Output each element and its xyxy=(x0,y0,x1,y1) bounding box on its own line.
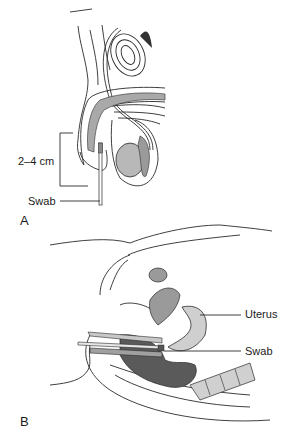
panel-a-male-diagram: 2–4 cm Swab A xyxy=(0,0,292,215)
panel-b-female-diagram: Uterus Swab B xyxy=(0,215,292,434)
measure-label: 2–4 cm xyxy=(18,155,54,167)
swab-label-b: Swab xyxy=(245,345,273,357)
swab-label-a: Swab xyxy=(28,195,56,207)
female-anatomy-illustration xyxy=(0,215,292,434)
uterus-label: Uterus xyxy=(245,308,277,320)
male-anatomy-illustration xyxy=(0,0,292,215)
panel-letter-b: B xyxy=(20,415,29,429)
